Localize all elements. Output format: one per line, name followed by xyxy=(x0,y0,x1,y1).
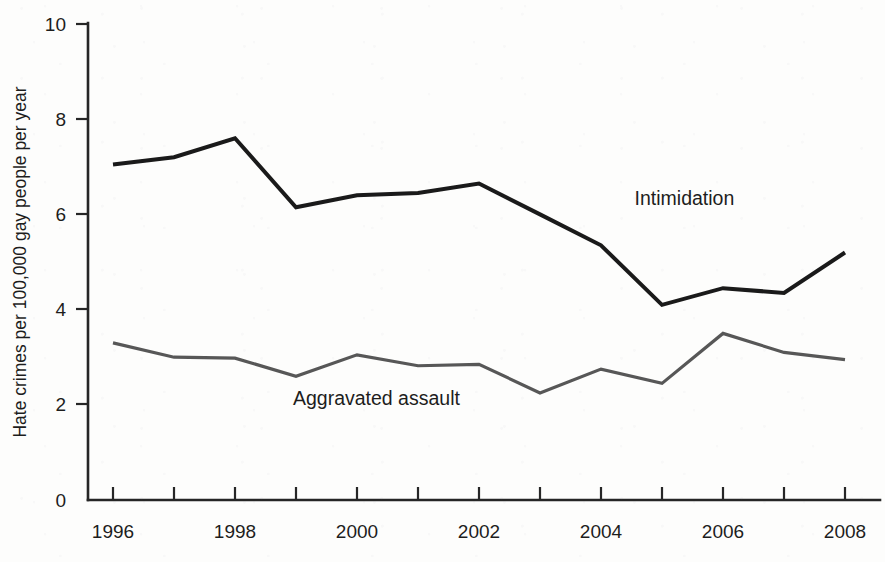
x-tick-label-1996: 1996 xyxy=(92,521,134,542)
y-tick-label-8: 8 xyxy=(55,109,66,130)
x-tick-label-2006: 2006 xyxy=(702,521,744,542)
series-label-intimidation: Intimidation xyxy=(635,187,735,209)
line-chart: 10 8 6 4 2 0 Hate crimes per 100,000 gay… xyxy=(0,0,885,562)
series-group xyxy=(113,138,845,393)
y-tick-label-2: 2 xyxy=(55,394,66,415)
y-tick-label-10: 10 xyxy=(45,14,66,35)
x-axis-group: 1996 1998 2000 2002 2004 2006 2008 xyxy=(88,487,880,542)
y-axis-title: Hate crimes per 100,000 gay people per y… xyxy=(10,86,30,437)
series-line-intimidation xyxy=(113,138,845,305)
x-tick-label-2000: 2000 xyxy=(336,521,378,542)
x-tick-label-2002: 2002 xyxy=(458,521,500,542)
series-line-aggravated-assault xyxy=(113,333,845,393)
x-tick-label-1998: 1998 xyxy=(214,521,256,542)
y-tick-label-4: 4 xyxy=(55,299,66,320)
series-annotations: Intimidation Aggravated assault xyxy=(293,187,734,409)
x-tick-label-2008: 2008 xyxy=(824,521,866,542)
y-tick-label-0: 0 xyxy=(55,490,66,511)
y-tick-label-6: 6 xyxy=(55,204,66,225)
x-tick-label-2004: 2004 xyxy=(580,521,623,542)
series-label-aggravated-assault: Aggravated assault xyxy=(293,387,461,409)
y-axis-group: 10 8 6 4 2 0 Hate crimes per 100,000 gay… xyxy=(10,14,88,511)
chart-svg: 10 8 6 4 2 0 Hate crimes per 100,000 gay… xyxy=(0,0,885,562)
